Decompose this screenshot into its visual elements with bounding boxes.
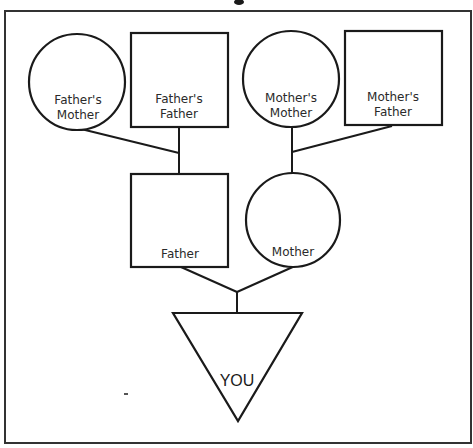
node-label: YOU — [220, 372, 255, 389]
node-mothers-father: Mother's Father — [345, 31, 442, 125]
node-mother: Mother — [246, 173, 340, 267]
node-label-line2: Father — [160, 107, 198, 121]
paternal-connector — [77, 127, 179, 174]
node-mothers-mother: Mother's Mother — [243, 31, 339, 127]
node-label: Mother — [272, 245, 314, 259]
node-fathers-father: Father's Father — [131, 33, 228, 127]
node-father: Father — [131, 174, 228, 267]
node-label-line2: Mother — [270, 106, 312, 120]
node-fathers-mother: Father's Mother — [29, 34, 125, 130]
node-you: YOU — [173, 313, 302, 421]
node-label-line1: Mother's — [265, 91, 317, 105]
self-triangle-icon — [173, 313, 302, 421]
node-label-line1: Father's — [155, 92, 202, 106]
parents-connector — [181, 266, 295, 313]
maternal-connector — [292, 126, 392, 174]
node-label: Father — [161, 247, 199, 261]
title-fragment — [234, 0, 244, 5]
scan-speck — [124, 393, 128, 395]
node-label-line2: Mother — [57, 108, 99, 122]
node-label-line1: Father's — [54, 93, 101, 107]
family-tree-diagram: Father's Mother Father's Father Mother's… — [0, 0, 473, 448]
node-label-line1: Mother's — [367, 90, 419, 104]
node-label-line2: Father — [374, 105, 412, 119]
